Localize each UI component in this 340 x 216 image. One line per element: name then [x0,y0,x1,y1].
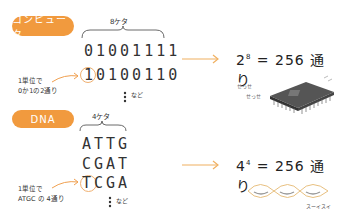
dna-note-line2: ATGC の 4通り [18,194,65,204]
equation-base: 2 [236,52,246,68]
cpu-chip-icon [266,74,336,114]
computer-etc: など [131,90,143,99]
brace-icon [80,26,166,40]
dna-tag: DNA [12,110,74,128]
dna-note: 1単位で ATGC の 4通り [18,184,65,204]
dna-digits-label: 4ケタ [92,111,110,121]
equation-base-dna: 4 [236,158,246,174]
dna-row-1: ATTG [82,135,130,153]
dna-row-2: CGAT [82,155,130,173]
computer-note: 1単位で 0か1の2通り [18,76,58,96]
sfx-2: せっせ [246,92,261,99]
sfx-1: せっせ [237,82,252,89]
computer-digits-label: 8ケタ [110,16,128,26]
dna-note-line1: 1単位で [18,184,65,194]
computer-note-line1: 1単位で [18,76,58,86]
vertical-dots-icon [123,88,127,107]
equation-exponent: 8 [246,53,251,61]
right-arrow-icon-dna [182,160,220,170]
right-arrow-icon [182,54,220,64]
dna-row-3: TCGA [82,174,130,192]
dna-etc: など [116,196,128,205]
computer-row-1: 01001111 [84,42,180,60]
computer-note-line2: 0か1の2通り [18,86,58,96]
computer-row-2: 10100110 [84,66,180,84]
dna-helix-icon [246,178,330,204]
brace-icon-dna [78,121,128,133]
equation-exponent-dna: 4 [246,159,251,167]
vertical-dots-icon-dna [108,193,112,212]
computer-tag: コンピュータ [12,16,74,36]
sfx-swim: スーイスイ [306,202,331,209]
